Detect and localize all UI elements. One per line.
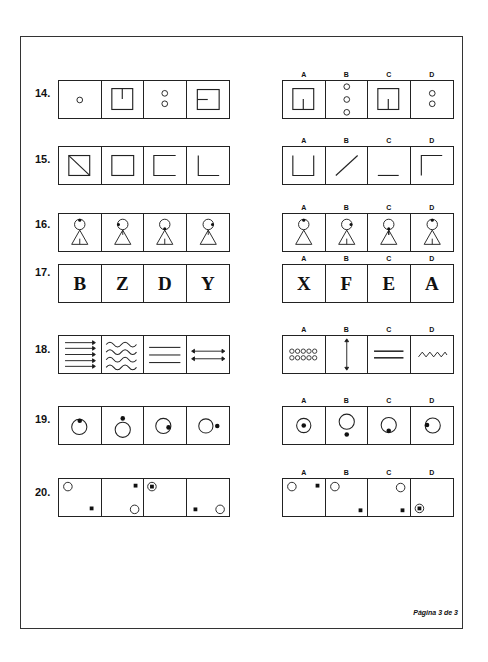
seq-cell: Y xyxy=(187,265,229,302)
circle-square-icon xyxy=(283,479,325,516)
option-label: C xyxy=(368,326,410,333)
square-line-left-icon xyxy=(187,81,229,118)
square-icon xyxy=(102,147,144,184)
square-diagonal-icon xyxy=(59,147,101,184)
seq-cell xyxy=(102,407,145,444)
option-a[interactable]: AX xyxy=(283,265,326,302)
option-b[interactable]: BF xyxy=(326,265,369,302)
option-b[interactable]: B xyxy=(326,147,369,184)
option-label: C xyxy=(368,71,410,78)
diagonal-line-icon xyxy=(326,147,368,184)
option-a[interactable]: A xyxy=(283,214,326,251)
option-c[interactable]: CE xyxy=(368,265,411,302)
option-a[interactable]: A xyxy=(283,479,326,516)
question-number-20: 20. xyxy=(35,486,50,498)
option-label: D xyxy=(411,137,453,144)
stick-figure-icon xyxy=(368,214,410,251)
letter: E xyxy=(368,265,410,302)
circle-dot-icon xyxy=(187,407,229,444)
letter: Y xyxy=(187,265,229,302)
option-b[interactable]: B xyxy=(326,81,369,118)
seq-cell xyxy=(102,479,145,516)
option-d[interactable]: D xyxy=(411,147,453,184)
square-line-bottom-icon xyxy=(283,81,325,118)
letter: D xyxy=(144,265,186,302)
question-number-19: 19. xyxy=(35,413,50,425)
option-c[interactable]: C xyxy=(368,81,411,118)
option-label: D xyxy=(411,397,453,404)
option-d[interactable]: D xyxy=(411,336,453,373)
option-c[interactable]: C xyxy=(368,147,411,184)
option-b[interactable]: B xyxy=(326,214,369,251)
circle-square-icon xyxy=(144,479,186,516)
option-b[interactable]: B xyxy=(326,407,369,444)
small-circle-icon xyxy=(59,81,101,118)
option-b[interactable]: B xyxy=(326,336,369,373)
seq-cell xyxy=(59,147,102,184)
right-arrows-icon xyxy=(59,336,101,373)
stick-figure-icon xyxy=(326,214,368,251)
option-a[interactable]: A xyxy=(283,336,326,373)
seq-cell xyxy=(144,147,187,184)
ten-circles-icon xyxy=(283,336,325,373)
stick-figure-icon xyxy=(411,214,453,251)
option-label: A xyxy=(283,326,325,333)
circle-square-icon xyxy=(59,479,101,516)
circle-square-icon xyxy=(326,479,368,516)
u-shape-icon xyxy=(283,147,325,184)
seq-cell xyxy=(187,479,229,516)
question-20-sequence xyxy=(58,478,230,517)
seq-cell xyxy=(144,214,187,251)
option-d[interactable]: D xyxy=(411,479,453,516)
option-label: D xyxy=(411,204,453,211)
letter: F xyxy=(326,265,368,302)
seq-cell xyxy=(144,479,187,516)
option-label: A xyxy=(283,204,325,211)
inverted-l-icon xyxy=(411,147,453,184)
stick-figure-icon xyxy=(283,214,325,251)
letter: A xyxy=(411,265,453,302)
seq-cell xyxy=(187,214,229,251)
option-c[interactable]: C xyxy=(368,214,411,251)
option-a[interactable]: A xyxy=(283,407,326,444)
question-17-sequence: B Z D Y xyxy=(58,264,230,303)
option-label: D xyxy=(411,255,453,262)
option-d[interactable]: D xyxy=(411,407,453,444)
seq-cell xyxy=(187,147,229,184)
question-19-options: A B C D xyxy=(282,406,454,445)
option-c[interactable]: C xyxy=(368,407,411,444)
option-c[interactable]: C xyxy=(368,336,411,373)
option-label: D xyxy=(411,469,453,476)
option-a[interactable]: A xyxy=(283,147,326,184)
seq-cell xyxy=(59,479,102,516)
option-d[interactable]: D xyxy=(411,81,453,118)
letter: B xyxy=(59,265,101,302)
seq-cell xyxy=(102,147,145,184)
stick-figure-icon xyxy=(59,214,101,251)
circle-dot-icon xyxy=(102,407,144,444)
letter: X xyxy=(283,265,325,302)
question-14-sequence xyxy=(58,80,230,119)
two-circles-icon xyxy=(144,81,186,118)
three-circles-icon xyxy=(326,81,368,118)
option-c[interactable]: C xyxy=(368,479,411,516)
circle-dot-icon xyxy=(326,407,368,444)
option-label: B xyxy=(326,71,368,78)
seq-cell xyxy=(144,81,187,118)
question-number-15: 15. xyxy=(35,153,50,165)
option-label: D xyxy=(411,71,453,78)
option-a[interactable]: A xyxy=(283,81,326,118)
two-circles-icon xyxy=(411,81,453,118)
two-lines-icon xyxy=(368,336,410,373)
option-label: A xyxy=(283,469,325,476)
letter: Z xyxy=(102,265,144,302)
option-b[interactable]: B xyxy=(326,479,369,516)
option-label: C xyxy=(368,469,410,476)
question-number-18: 18. xyxy=(35,343,50,355)
horizontal-line-icon xyxy=(368,147,410,184)
seq-cell xyxy=(59,336,102,373)
option-d[interactable]: D xyxy=(411,214,453,251)
option-d[interactable]: DA xyxy=(411,265,453,302)
option-label: C xyxy=(368,397,410,404)
wavy-lines-icon xyxy=(102,336,144,373)
